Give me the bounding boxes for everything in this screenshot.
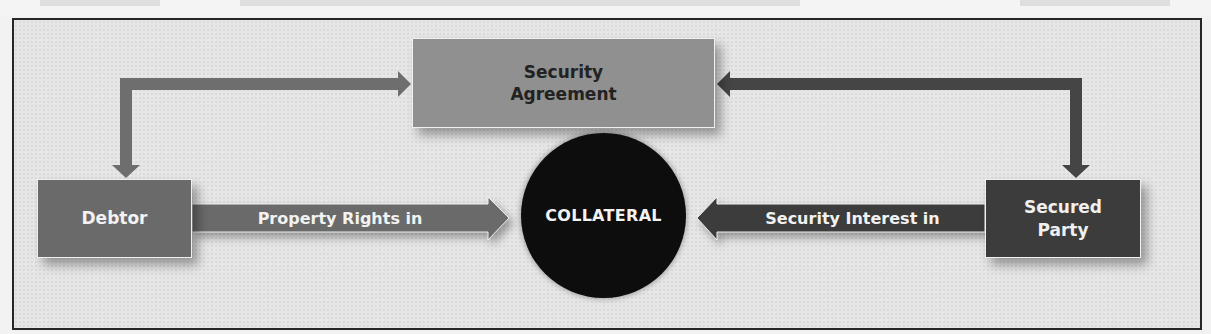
security-agreement-node: Security Agreement [412,38,715,128]
security-agreement-label-line2: Agreement [510,83,616,105]
property-rights-label: Property Rights in [205,204,475,232]
arrowhead-left-icon [717,71,730,97]
security-agreement-label-line1: Security [510,61,616,83]
secured-party-node: Secured Party [985,179,1141,258]
agreement-debtor-connector [112,71,411,178]
agreement-secured-connector [717,71,1090,178]
security-interest-label: Security Interest in [725,204,980,232]
arrowhead-down-icon [112,165,140,178]
arrowhead-right-icon [398,71,411,97]
collateral-label: COLLATERAL [545,206,662,225]
arrowhead-down-icon [1062,165,1090,178]
debtor-label: Debtor [82,207,148,229]
secured-party-label-line1: Secured [1024,196,1102,218]
debtor-node: Debtor [37,179,192,258]
collateral-node: COLLATERAL [521,133,686,298]
secured-party-label-line2: Party [1024,219,1102,241]
